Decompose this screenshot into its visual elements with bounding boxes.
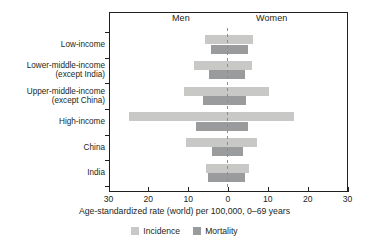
bar-mortality-men-0 xyxy=(211,45,228,54)
value-axis-tick xyxy=(228,187,229,192)
bar-incidence-men-4 xyxy=(186,138,228,147)
value-axis-tick-label: 30 xyxy=(338,194,358,204)
bar-mortality-women-5 xyxy=(228,173,245,182)
bar-mortality-men-5 xyxy=(208,173,228,182)
value-axis-tick xyxy=(348,187,349,192)
value-axis-tick-label: 20 xyxy=(298,194,318,204)
bar-mortality-women-3 xyxy=(228,122,248,131)
bar-incidence-men-5 xyxy=(206,164,228,173)
legend-item-mortality: Mortality xyxy=(193,226,237,236)
bar-incidence-women-1 xyxy=(228,61,252,70)
bar-incidence-men-0 xyxy=(205,35,228,44)
value-axis-tick xyxy=(188,187,189,192)
bar-incidence-women-3 xyxy=(228,112,294,121)
bar-incidence-men-2 xyxy=(184,87,228,96)
value-axis-tick xyxy=(148,187,149,192)
bar-mortality-women-4 xyxy=(228,147,243,156)
legend-swatch-icon xyxy=(193,227,201,235)
chart-figure: Men Women Low-incomeLower-middle-income(… xyxy=(0,0,369,252)
chart-legend: IncidenceMortality xyxy=(0,226,369,236)
value-axis-tick xyxy=(109,187,110,192)
bar-incidence-women-0 xyxy=(228,35,253,44)
bar-mortality-men-2 xyxy=(203,96,228,105)
value-axis-tick-label: 10 xyxy=(258,194,278,204)
bar-mortality-men-1 xyxy=(209,70,228,79)
bar-mortality-men-4 xyxy=(212,147,228,156)
value-axis-tick-label: 20 xyxy=(138,194,158,204)
bar-mortality-women-0 xyxy=(228,45,248,54)
bar-incidence-women-5 xyxy=(228,164,249,173)
zero-reference-line xyxy=(227,28,228,188)
value-axis-tick-label: 10 xyxy=(178,194,198,204)
bar-incidence-men-1 xyxy=(194,61,228,70)
legend-item-incidence: Incidence xyxy=(131,226,180,236)
bar-mortality-women-1 xyxy=(228,70,245,79)
bar-incidence-men-3 xyxy=(129,112,228,121)
value-axis-tick-label: 0 xyxy=(218,194,238,204)
value-axis-tick xyxy=(308,187,309,192)
x-axis-title: Age-standardized rate (world) per 100,00… xyxy=(0,206,369,216)
bar-mortality-men-3 xyxy=(196,122,228,131)
legend-label: Incidence xyxy=(143,226,180,236)
value-axis-tick xyxy=(268,187,269,192)
legend-label: Mortality xyxy=(205,226,237,236)
value-axis-tick-label: 30 xyxy=(99,194,119,204)
legend-swatch-icon xyxy=(131,227,139,235)
bar-incidence-women-2 xyxy=(228,87,269,96)
bar-mortality-women-2 xyxy=(228,96,246,105)
bar-incidence-women-4 xyxy=(228,138,257,147)
